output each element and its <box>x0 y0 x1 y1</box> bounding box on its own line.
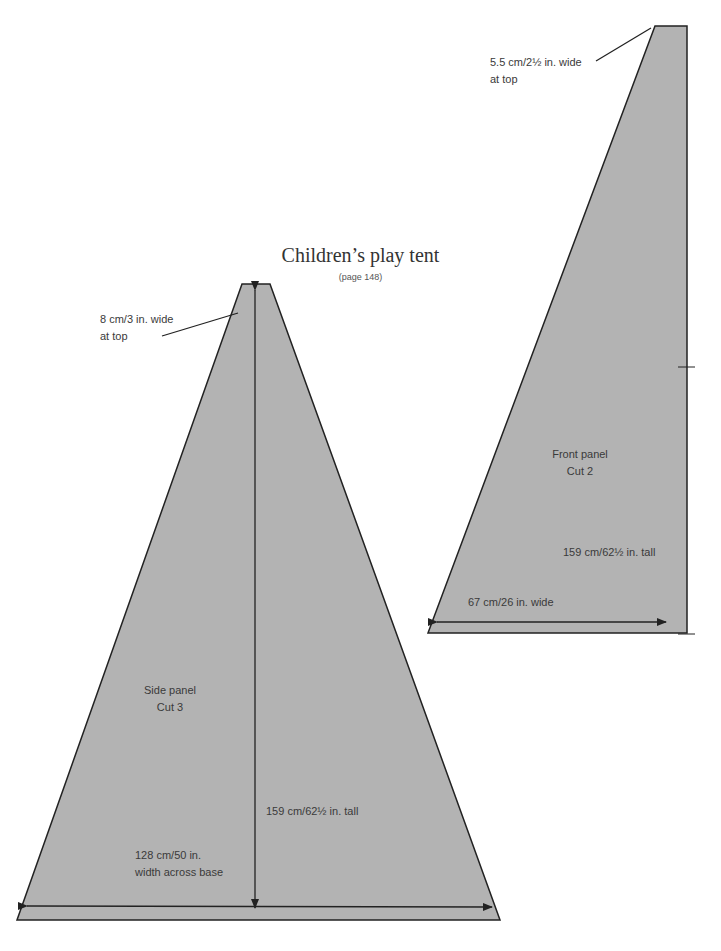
front-panel-shape <box>428 26 695 634</box>
page-title: Children’s play tent <box>0 244 721 267</box>
front-top-width-label: 5.5 cm/2½ in. wide at top <box>490 54 582 88</box>
side-height-label: 159 cm/62½ in. tall <box>266 803 358 820</box>
side-panel-shape <box>17 284 500 920</box>
front-top-leader-line <box>596 28 651 61</box>
side-base-width-label: 128 cm/50 in. width across base <box>135 847 223 881</box>
side-panel-name-label: Side panel Cut 3 <box>130 682 210 716</box>
front-panel-name-label: Front panel Cut 2 <box>540 446 620 480</box>
page-reference: (page 148) <box>0 272 721 282</box>
front-width-label: 67 cm/26 in. wide <box>468 594 554 611</box>
side-top-width-label: 8 cm/3 in. wide at top <box>100 311 173 345</box>
front-height-label: 159 cm/62½ in. tall <box>563 544 655 561</box>
